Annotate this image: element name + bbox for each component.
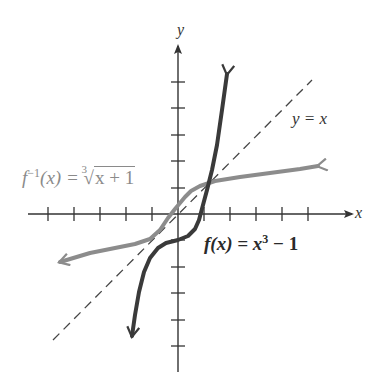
identity-line-label: y = x xyxy=(292,109,327,129)
identity-label-text: y = x xyxy=(292,109,327,128)
inverse-label-exponent: −1 xyxy=(27,166,40,180)
root-index: 3 xyxy=(81,163,87,175)
cube-root: 3√x + 1 xyxy=(83,167,135,189)
inverse-label-arg: (x) = xyxy=(40,167,83,188)
graph-canvas xyxy=(0,0,371,391)
function-label: f(x) = x3 − 1 xyxy=(204,233,298,255)
x-axis-label: x xyxy=(355,204,362,222)
y-axis-label: y xyxy=(177,21,184,39)
function-label-name: f(x) = x xyxy=(204,233,262,254)
inverse-function-label: f−1(x) = 3√x + 1 xyxy=(22,167,135,189)
function-label-tail: − 1 xyxy=(268,233,298,254)
x-axis xyxy=(28,207,352,221)
identity-line xyxy=(53,80,312,340)
root-radicand: x + 1 xyxy=(94,166,135,188)
